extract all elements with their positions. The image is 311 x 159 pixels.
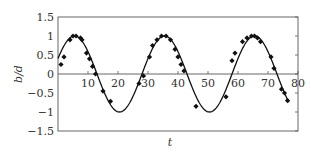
data-point-marker: [163, 33, 168, 38]
y-tick-label: 0.5: [37, 49, 55, 62]
data-point-marker: [154, 37, 159, 42]
y-tick-label: −0.5: [27, 87, 54, 100]
y-axis-ticks: 1.510.50−0.5−1−1.5: [27, 11, 298, 138]
data-point-marker: [285, 98, 290, 103]
x-tick-label: 70: [261, 77, 275, 90]
data-point-marker: [61, 54, 66, 59]
y-tick-label: −1.5: [27, 125, 54, 138]
data-point-marker: [172, 47, 177, 52]
y-tick-label: 1: [47, 30, 54, 43]
x-tick-label: 10: [81, 77, 95, 90]
data-point-marker: [229, 58, 234, 63]
data-point-marker: [232, 51, 237, 56]
data-point-marker: [73, 33, 78, 38]
x-tick-label: 80: [291, 77, 305, 90]
data-point-marker: [258, 39, 263, 44]
data-point-marker: [282, 90, 287, 95]
data-point-marker: [150, 43, 155, 48]
y-tick-label: 0: [47, 68, 54, 81]
data-point-marker: [67, 37, 72, 42]
chart: 1.510.50−0.5−1−1.5 1020304050607080 t b/…: [0, 0, 311, 159]
x-tick-label: 30: [141, 77, 155, 90]
x-tick-label: 20: [111, 77, 125, 90]
data-point-marker: [108, 99, 113, 104]
x-tick-label: 60: [231, 77, 245, 90]
y-tick-label: 1.5: [37, 11, 55, 24]
data-point-marker: [240, 39, 245, 44]
x-axis-label: t: [168, 136, 173, 149]
data-point-marker: [193, 104, 198, 109]
x-tick-label: 40: [171, 77, 185, 90]
x-tick-label: 50: [201, 77, 215, 90]
y-axis-label: b/d: [12, 65, 25, 83]
data-point-marker: [58, 62, 63, 67]
y-tick-label: −1: [38, 106, 54, 119]
